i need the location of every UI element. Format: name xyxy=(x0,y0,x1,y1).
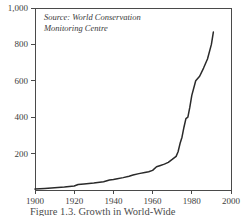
x-tick-label-2000: 2000 xyxy=(222,196,241,206)
line-chart: 1,000 800 600 400 200 1900 1920 1940 196… xyxy=(0,0,244,216)
x-tick-label-1900: 1900 xyxy=(26,196,45,206)
source-annotation: Source: World Conservation Monitoring Ce… xyxy=(43,12,141,33)
figure-caption: Figure 1.3. Growth in World-Wide xyxy=(30,208,176,216)
x-tick-label-1920: 1920 xyxy=(65,196,84,206)
y-tick-label-200: 200 xyxy=(15,149,29,159)
figure-container: 1,000 800 600 400 200 1900 1920 1940 196… xyxy=(0,0,244,216)
plot-frame xyxy=(35,8,231,190)
data-line-protected-areas xyxy=(35,32,213,189)
x-axis-ticks xyxy=(35,190,231,194)
source-note-line-1: Source: World Conservation xyxy=(44,12,141,22)
x-tick-label-1980: 1980 xyxy=(183,196,202,206)
x-tick-label-1940: 1940 xyxy=(104,196,123,206)
y-tick-label-800: 800 xyxy=(15,39,29,49)
data-series-group xyxy=(35,32,213,189)
source-note-line-2: Monitoring Centre xyxy=(43,23,108,33)
y-tick-label-1000: 1,000 xyxy=(8,3,29,13)
y-tick-label-400: 400 xyxy=(15,112,29,122)
y-axis-ticks xyxy=(31,8,35,154)
x-tick-label-1960: 1960 xyxy=(144,196,163,206)
caption-strip: Figure 1.3. Growth in World-Wide xyxy=(0,208,244,216)
y-tick-label-600: 600 xyxy=(15,76,29,86)
x-axis-labels: 1900 1920 1940 1960 1980 2000 xyxy=(26,196,241,206)
y-axis-labels: 1,000 800 600 400 200 xyxy=(8,3,29,159)
